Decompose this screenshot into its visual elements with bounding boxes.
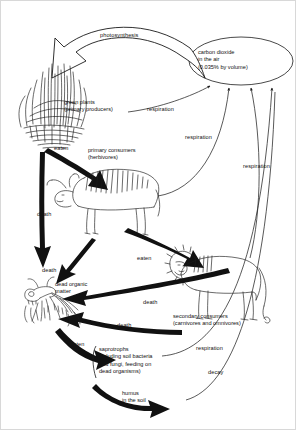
dead-organic-matter-line-2: matter	[55, 288, 87, 295]
edge-label-eaten-plants: eaten	[54, 145, 68, 152]
saprotrophs-line-4: dead organisms)	[99, 368, 152, 375]
humus-line-1: humus	[122, 390, 146, 397]
humus-label: humus in the soil	[122, 390, 146, 405]
edge-label-respiration-plants: respiration	[147, 106, 174, 113]
dead-organic-matter-line-1: dead organic	[55, 281, 87, 288]
humus-line-2: in the soil	[122, 397, 146, 404]
dead-organic-matter-label: dead organic matter	[55, 281, 87, 296]
secondary-consumers-line-1: secondary consumers	[173, 313, 241, 320]
carbon-dioxide-line-1: carbon dioxide	[198, 49, 248, 56]
secondary-consumers-line-2: (carnivores and omnivores)	[173, 320, 241, 327]
edge-label-photosynthesis: photosynthesis	[100, 32, 138, 39]
edge-label-eaten-dead-saprotrophs: eaten	[70, 341, 84, 348]
edge-label-death-secondary-lower: death	[117, 322, 131, 329]
green-plants-label: green plants (primary producers)	[64, 99, 113, 114]
respiration-secondary-line	[250, 88, 259, 258]
primary-consumers-line-1: primary consumers	[88, 147, 136, 154]
green-plants-line-1: green plants	[64, 99, 113, 106]
primary-consumers-line-2: (herbivores)	[88, 154, 136, 161]
edge-label-respiration-saprotrophs: respiration	[196, 345, 223, 352]
carbon-cycle-diagram: carbon dioxide in the air (0.035% by vol…	[0, 0, 296, 430]
edge-label-respiration-primary: respiration	[185, 134, 212, 141]
carbon-dioxide-line-3: (0.035% by volume)	[198, 64, 248, 71]
edge-label-death-secondary-upper: death	[143, 299, 157, 306]
respiration-primary-line	[158, 88, 229, 196]
carbon-dioxide-label: carbon dioxide in the air (0.035% by vol…	[198, 49, 248, 71]
saprotrophs-line-3: and fungi, feeding on	[99, 361, 152, 368]
death-primary-arrow	[56, 238, 96, 284]
primary-consumers-label: primary consumers (herbivores)	[88, 147, 136, 162]
edge-label-eaten-primary-secondary: eaten	[137, 255, 151, 262]
edge-label-death-plants: death	[37, 211, 51, 218]
saprotrophs-line-1: saprotrophs	[99, 346, 152, 353]
edge-label-respiration-secondary: respiration	[243, 163, 270, 170]
green-plants-line-2: (primary producers)	[64, 106, 113, 113]
edge-label-death-primary: death	[42, 267, 56, 274]
saprotrophs-line-2: including soil bacteria	[99, 353, 152, 360]
edge-label-decay: decay	[208, 369, 223, 376]
secondary-consumers-label: secondary consumers (carnivores and omni…	[173, 313, 241, 328]
death-plants-arrow	[34, 152, 51, 268]
saprotrophs-label: saprotrophs including soil bacteria and …	[99, 346, 152, 375]
carbon-dioxide-line-2: in the air	[198, 56, 248, 63]
